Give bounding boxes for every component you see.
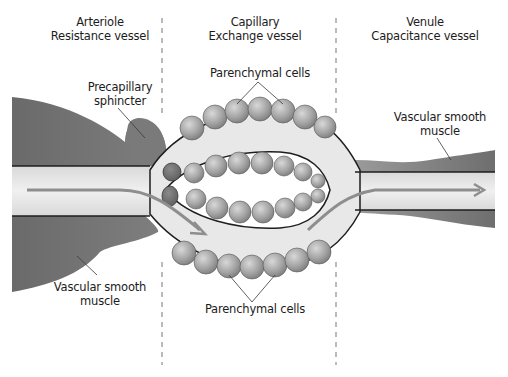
precapillary-line1: Precapillary (85, 80, 155, 94)
arteriole-subtitle: Resistance vessel (45, 29, 155, 43)
circulation-diagram: Arteriole Resistance vessel Capillary Ex… (0, 0, 508, 377)
vsm-left-line2: muscle (45, 294, 155, 308)
capillary-subtitle: Exchange vessel (200, 29, 310, 43)
precapillary-line2: sphincter (85, 94, 155, 108)
venule-subtitle: Capacitance vessel (365, 29, 485, 43)
parenchymal-cells-bottom-label: Parenchymal cells (200, 302, 310, 316)
parenchymal-cells-top-label: Parenchymal cells (205, 66, 315, 80)
vascular-smooth-muscle-right-label: Vascular smooth muscle (385, 110, 495, 138)
capillary-title: Capillary Exchange vessel (200, 15, 310, 43)
arteriole-title: Arteriole Resistance vessel (45, 15, 155, 43)
arteriole-name: Arteriole (45, 15, 155, 29)
precapillary-sphincter-label: Precapillary sphincter (85, 80, 155, 108)
vascular-smooth-muscle-left-label: Vascular smooth muscle (45, 280, 155, 308)
vsm-right-line1: Vascular smooth (385, 110, 495, 124)
venule-name: Venule (365, 15, 485, 29)
venule-title: Venule Capacitance vessel (365, 15, 485, 43)
capillary-name: Capillary (200, 15, 310, 29)
vsm-left-line1: Vascular smooth (45, 280, 155, 294)
vsm-right-line2: muscle (385, 124, 495, 138)
vessel-illustration (0, 0, 508, 377)
